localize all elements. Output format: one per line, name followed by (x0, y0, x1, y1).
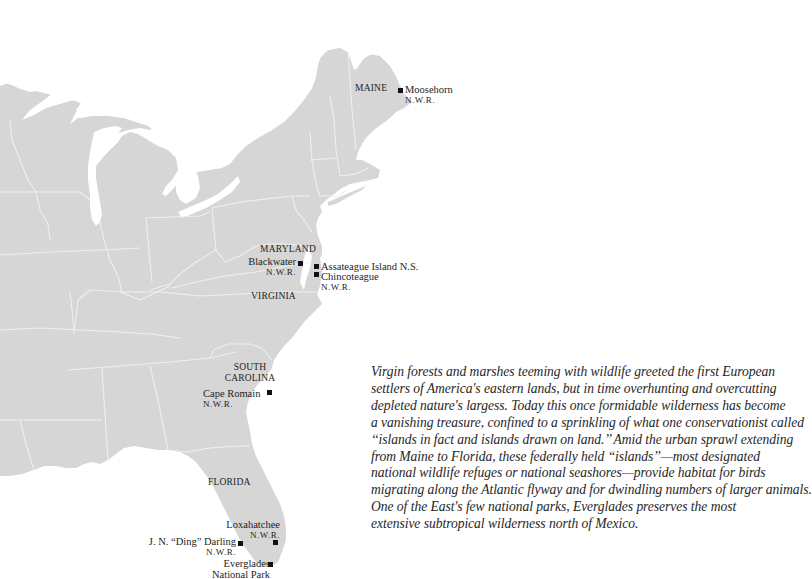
state-label-south-carolina-line2: CAROLINA (218, 373, 282, 384)
site-designation: N.W.R. (130, 547, 236, 558)
caption-line: depleted nature's largess. Today this on… (371, 398, 791, 415)
caption-line: migrating along the Atlantic flyway and … (371, 482, 791, 499)
site-label-moosehorn: Moosehorn N.W.R. (405, 84, 453, 106)
site-marker-everglades (268, 562, 273, 567)
site-name: J. N. “Ding” Darling (130, 536, 236, 547)
site-name: Everglades (190, 558, 270, 569)
site-name: Chincoteague (321, 271, 379, 282)
caption-line: One of the East's few national parks, Ev… (371, 499, 791, 516)
site-name: Blackwater (230, 256, 296, 267)
site-marker-assateague (314, 264, 319, 269)
caption-line: ‘‘islands in fact and islands drawn on l… (371, 432, 791, 449)
caption-paragraph: Virgin forests and marshes teeming with … (371, 364, 791, 533)
caption-line: Virgin forests and marshes teeming with … (371, 364, 791, 381)
site-marker-moosehorn (398, 88, 403, 93)
site-designation: N.W.R. (203, 399, 260, 410)
site-name: Loxahatchee (210, 519, 280, 530)
site-marker-loxahatchee (273, 540, 278, 545)
caption-line: from Maine to Florida, these federally h… (371, 449, 791, 466)
state-label-virginia: VIRGINIA (251, 291, 296, 302)
caption-line: a vanishing treasure, confined to a spri… (371, 415, 791, 432)
site-marker-blackwater (298, 261, 303, 266)
site-designation: N.W.R. (230, 267, 296, 278)
site-label-blackwater: Blackwater N.W.R. (230, 256, 296, 278)
state-label-south-carolina-line1: SOUTH (218, 362, 282, 373)
state-label-south-carolina: SOUTH CAROLINA (218, 362, 282, 384)
site-label-ding-darling: J. N. “Ding” Darling N.W.R. (130, 536, 236, 558)
caption-line: extensive subtropical wilderness north o… (371, 516, 791, 533)
site-name: Moosehorn (405, 84, 453, 95)
state-label-maryland: MARYLAND (260, 244, 316, 255)
site-marker-ding-darling (238, 541, 243, 546)
site-label-everglades: Everglades National Park (190, 558, 270, 579)
site-designation: N.W.R. (321, 282, 379, 293)
site-label-cape-romain: Cape Romain N.W.R. (203, 388, 260, 410)
site-marker-chincoteague (314, 272, 319, 277)
caption-line: national wildlife refuges or national se… (371, 465, 791, 482)
site-designation: N.W.R. (405, 95, 453, 106)
state-label-maine: MAINE (355, 83, 387, 94)
site-marker-cape-romain (267, 390, 272, 395)
site-label-chincoteague: Chincoteague N.W.R. (321, 271, 379, 293)
state-label-florida: FLORIDA (208, 477, 251, 488)
site-name: Cape Romain (203, 388, 260, 399)
caption-line: settlers of America's eastern lands, but… (371, 381, 791, 398)
site-designation: National Park (190, 569, 270, 579)
